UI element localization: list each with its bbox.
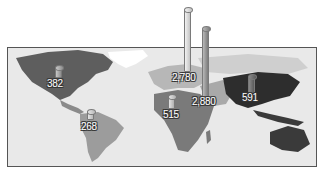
region-north-america <box>16 50 113 100</box>
bar-south-america <box>87 110 94 120</box>
label-africa: 515 <box>163 109 179 120</box>
map-landmasses <box>8 48 316 166</box>
label-asia: 591 <box>242 92 258 103</box>
bar-europe <box>184 8 191 72</box>
label-europe: 2,780 <box>172 72 196 83</box>
region-madagascar <box>206 130 211 144</box>
label-north-america: 382 <box>47 78 63 89</box>
world-map <box>7 47 317 167</box>
bar-africa <box>168 95 175 109</box>
bar-middle-east <box>202 27 209 97</box>
region-australia <box>270 126 310 152</box>
bar-asia <box>248 75 255 93</box>
region-greenland <box>108 50 148 68</box>
label-south-america: 268 <box>81 121 97 132</box>
bar-north-america <box>55 66 62 78</box>
region-russia <box>198 54 308 74</box>
label-middle-east: 2,880 <box>192 96 216 107</box>
region-central-america <box>60 100 84 114</box>
region-asia <box>223 72 300 108</box>
region-se-asia <box>253 110 304 126</box>
